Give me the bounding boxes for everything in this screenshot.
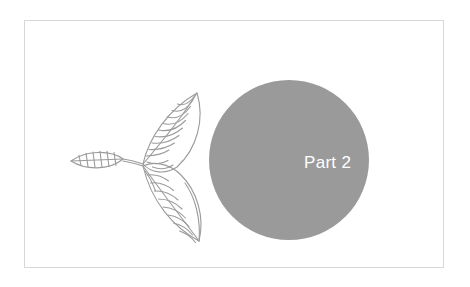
small-leaf-shape (71, 151, 123, 168)
slide-root: Part 2 (0, 0, 470, 287)
part-label: Part 2 (304, 153, 351, 173)
leaf-branch-svg (65, 71, 225, 256)
lower-leaf-shape (143, 163, 201, 242)
slide-frame: Part 2 (24, 20, 444, 268)
upper-leaf-shape (143, 93, 200, 172)
leaf-branch-icon (65, 71, 225, 256)
